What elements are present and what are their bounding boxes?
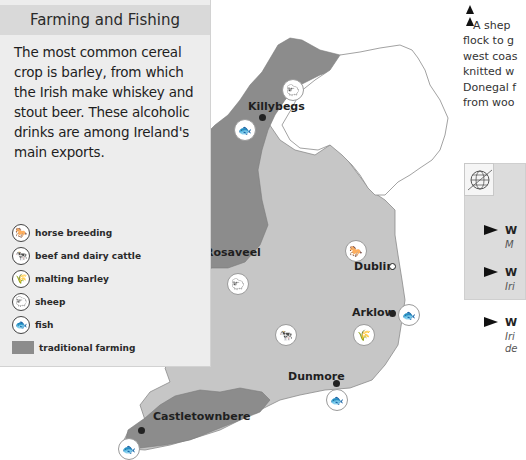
panel-body-text: The most common cereal crop is barley, f…: [14, 42, 204, 162]
town-marker-arklow: [389, 310, 396, 317]
info-item-title: W: [505, 316, 517, 329]
info-item-sub: Iri: [505, 281, 515, 293]
legend-item-fish: 🐟 fish: [12, 313, 141, 336]
town-marker-killybegs: [259, 114, 266, 121]
cow-icon: 🐄: [12, 247, 30, 265]
arrow-bullet-icon: [484, 267, 498, 277]
horse-icon: 🐎: [12, 224, 30, 242]
panel-title: Farming and Fishing: [0, 5, 210, 35]
legend-item-horse: 🐎 horse breeding: [12, 221, 141, 244]
fish-icon: 🐟: [326, 389, 348, 411]
arrow-bullet-icon: [484, 317, 498, 327]
legend-item-sheep: 🐑 sheep: [12, 290, 141, 313]
info-item-sub: M: [505, 239, 514, 251]
info-item-title: W: [505, 266, 517, 279]
info-item-title: W: [505, 224, 517, 237]
town-label-rosaveel: Rosaveel: [205, 246, 261, 259]
sheep-icon: 🐑: [282, 79, 304, 101]
horse-icon: 🐎: [345, 240, 367, 262]
fish-icon: 🐟: [12, 316, 30, 334]
fish-icon: 🐟: [118, 438, 140, 460]
sheep-icon: 🐑: [227, 273, 249, 295]
fish-icon: 🐟: [234, 119, 256, 141]
legend-item-cattle: 🐄 beef and dairy cattle: [12, 244, 141, 267]
farming-fishing-panel: Farming and Fishing The most common cere…: [0, 0, 211, 367]
legend-item-traditional-farming: traditional farming: [12, 336, 141, 359]
town-marker-castletownbere: [138, 427, 145, 434]
town-label-killybegs: Killybegs: [248, 100, 305, 113]
map-legend: 🐎 horse breeding 🐄 beef and dairy cattle…: [12, 221, 141, 359]
cow-icon: 🐄: [275, 324, 297, 346]
globe-icon: [465, 164, 493, 195]
town-marker-dunmore: [333, 380, 340, 387]
sheep-icon: 🐑: [12, 293, 30, 311]
barley-icon: 🌾: [12, 270, 30, 288]
info-tab: [464, 163, 494, 196]
triangle-marker-icon: [466, 5, 474, 14]
barley-icon: 🌾: [353, 324, 375, 346]
side-caption: A shep flock to g west coas knitted w Do…: [463, 18, 518, 110]
traditional-farming-swatch: [12, 341, 34, 354]
town-marker-dublin: [389, 263, 396, 270]
fish-icon: 🐟: [398, 304, 420, 326]
info-item-sub: de: [505, 343, 518, 355]
town-label-castletownbere: Castletownbere: [153, 410, 251, 423]
arrow-bullet-icon: [484, 225, 498, 235]
legend-item-barley: 🌾 malting barley: [12, 267, 141, 290]
info-item-sub: Iri: [505, 331, 515, 343]
